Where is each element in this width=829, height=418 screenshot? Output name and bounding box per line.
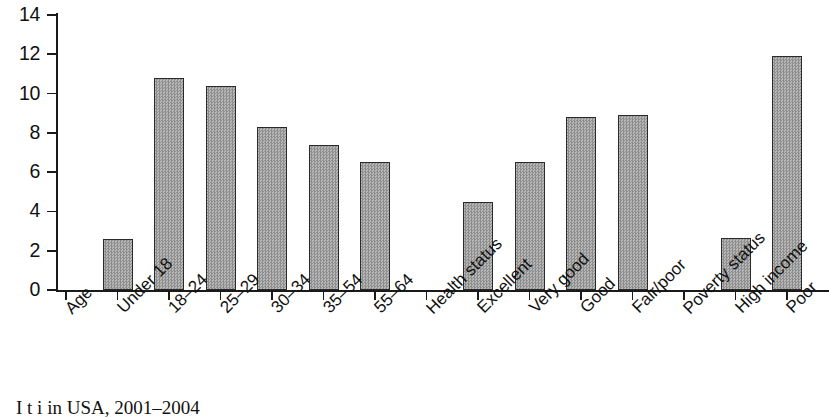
bar xyxy=(721,238,751,290)
y-tick-label: 12 xyxy=(0,44,40,64)
bar xyxy=(463,202,493,290)
y-tick-label: 6 xyxy=(0,162,40,182)
y-tick xyxy=(47,14,56,16)
bar xyxy=(515,162,545,290)
x-tick xyxy=(735,291,737,300)
x-tick xyxy=(683,291,685,300)
bar-chart-figure: 02468101214 AgeUnder 1818–2425–2930–3435… xyxy=(0,0,829,418)
y-tick-label: 4 xyxy=(0,201,40,221)
bar xyxy=(154,78,184,290)
y-tick xyxy=(47,250,56,252)
y-tick xyxy=(47,211,56,213)
figure-caption: I t i in USA, 2001–2004 xyxy=(16,398,200,418)
y-tick-label: 0 xyxy=(0,280,40,300)
bar xyxy=(360,162,390,290)
y-tick xyxy=(47,289,56,291)
y-tick xyxy=(47,132,56,134)
bar xyxy=(772,56,802,290)
x-tick xyxy=(65,291,67,300)
y-tick xyxy=(47,53,56,55)
x-tick xyxy=(529,291,531,300)
x-tick xyxy=(786,291,788,300)
bar xyxy=(566,117,596,290)
y-tick-label: 8 xyxy=(0,123,40,143)
x-tick xyxy=(117,291,119,300)
y-axis-line xyxy=(56,13,58,292)
y-tick xyxy=(47,171,56,173)
x-axis-label: Age xyxy=(62,284,95,317)
x-tick xyxy=(426,291,428,300)
x-axis-line xyxy=(56,290,829,292)
y-tick-label: 2 xyxy=(0,241,40,261)
bar xyxy=(103,239,133,290)
bar xyxy=(257,127,287,290)
bar xyxy=(618,115,648,290)
bar xyxy=(309,145,339,290)
y-tick xyxy=(47,93,56,95)
x-tick xyxy=(374,291,376,300)
x-tick xyxy=(580,291,582,300)
x-tick xyxy=(477,291,479,300)
x-tick xyxy=(632,291,634,300)
x-tick xyxy=(271,291,273,300)
x-tick xyxy=(323,291,325,300)
bar xyxy=(206,86,236,290)
x-tick xyxy=(168,291,170,300)
y-tick-label: 14 xyxy=(0,5,40,25)
x-tick xyxy=(220,291,222,300)
y-tick-label: 10 xyxy=(0,84,40,104)
x-axis-labels: AgeUnder 1818–2425–2930–3435–5455–64Heal… xyxy=(0,0,829,418)
